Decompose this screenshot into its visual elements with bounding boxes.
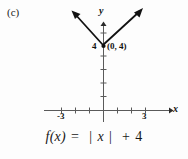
y-axis-arrowhead — [101, 22, 107, 27]
y-axis-label: y — [99, 6, 103, 16]
x-axis-label: x — [173, 104, 178, 114]
equation-constant: 4 — [135, 129, 142, 144]
equation-function-name: f(x) — [45, 129, 66, 144]
equation-equals: = — [71, 129, 79, 144]
equation-abs-bar-open: | — [89, 129, 92, 144]
figure-panel: (c) — [0, 0, 188, 159]
equation-variable: x — [97, 129, 104, 144]
equation-abs-bar-close: | — [109, 129, 112, 144]
vertex-point-label: (0, 4) — [107, 42, 127, 51]
vertex-marker — [101, 44, 105, 48]
y-intercept-tick-label: 4 — [92, 42, 97, 51]
x-tick-label-positive-three: 3 — [142, 112, 147, 121]
equation-plus-sign: + — [122, 129, 130, 144]
function-curve — [75, 12, 140, 46]
function-equation: f(x)=|x|+4 — [0, 130, 188, 144]
x-tick-label-negative-three: -3 — [57, 112, 65, 121]
